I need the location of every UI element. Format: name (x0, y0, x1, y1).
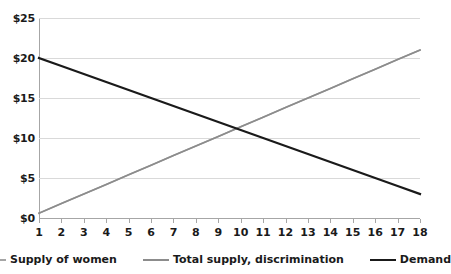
x-axis-tick-label: 2 (49, 226, 73, 239)
x-axis-tick-label: 5 (117, 226, 141, 239)
x-axis-tick-label: 8 (184, 226, 208, 239)
x-axis-tick (420, 219, 421, 223)
x-axis-tick (375, 219, 376, 223)
legend-item[interactable]: Total supply, discrimination (143, 254, 344, 266)
y-axis-tick-label: $20 (1, 53, 35, 64)
x-axis-tick (286, 219, 287, 223)
x-axis-tick-label: 10 (229, 226, 253, 239)
x-axis-tick (263, 219, 264, 223)
x-axis-tick (218, 219, 219, 223)
legend-line-swatch-icon (0, 259, 6, 261)
legend-item-label: Demand (400, 254, 451, 266)
legend-line-swatch-icon (143, 259, 169, 261)
x-axis-tick-label: 9 (206, 226, 230, 239)
x-axis-tick (196, 219, 197, 223)
x-axis-tick (39, 219, 40, 223)
y-axis-tick-label: $0 (1, 213, 35, 224)
x-axis-tick (398, 219, 399, 223)
x-axis-tick-label: 1 (27, 226, 51, 239)
series-line (39, 50, 420, 213)
legend-line-swatch-icon (370, 259, 396, 261)
x-axis-tick-label: 12 (274, 226, 298, 239)
x-axis-tick (330, 219, 331, 223)
legend-item-label: Total supply, discrimination (173, 254, 344, 266)
series-layer (39, 18, 420, 218)
x-axis-tick-label: 11 (251, 226, 275, 239)
x-axis-tick (173, 219, 174, 223)
x-axis-tick (84, 219, 85, 223)
x-axis-tick-label: 16 (363, 226, 387, 239)
x-axis-tick (129, 219, 130, 223)
y-axis-tick-label: $10 (1, 133, 35, 144)
x-axis-tick (61, 219, 62, 223)
x-axis-tick-label: 7 (161, 226, 185, 239)
x-axis-tick-label: 6 (139, 226, 163, 239)
x-axis-tick-label: 13 (296, 226, 320, 239)
legend-item[interactable]: Demand (370, 254, 451, 266)
plot-area (39, 18, 420, 218)
x-axis-tick (151, 219, 152, 223)
x-axis-tick (241, 219, 242, 223)
x-axis-labels: 123456789101112131415161718 (39, 226, 420, 242)
x-axis-tick-label: 14 (318, 226, 342, 239)
chart-legend: Supply of womenTotal supply, discriminat… (0, 250, 431, 270)
legend-item-label: Supply of women (10, 254, 117, 266)
x-axis-tick (308, 219, 309, 223)
y-axis-tick-label: $15 (1, 93, 35, 104)
x-axis-tick (106, 219, 107, 223)
x-axis-tick-label: 17 (386, 226, 410, 239)
y-axis-tick-label: $25 (1, 13, 35, 24)
x-axis-tick-label: 15 (341, 226, 365, 239)
x-axis-tick-label: 3 (72, 226, 96, 239)
x-axis-ticks (39, 219, 420, 224)
y-axis-tick-label: $5 (1, 173, 35, 184)
series-line (39, 58, 420, 194)
legend-item[interactable]: Supply of women (0, 254, 117, 266)
x-axis-tick (353, 219, 354, 223)
x-axis-tick-label: 18 (408, 226, 432, 239)
x-axis-tick-label: 4 (94, 226, 118, 239)
